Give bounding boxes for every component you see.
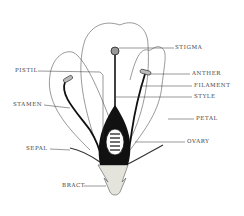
flower-illustration — [0, 0, 244, 216]
bract — [98, 165, 128, 195]
anther-left — [63, 75, 74, 83]
label-bract: BRACT — [62, 183, 85, 189]
label-stamen: STAMEN — [13, 102, 42, 108]
anther-right — [140, 69, 152, 76]
label-ovary: OVARY — [187, 139, 210, 145]
stigma — [111, 47, 119, 55]
label-style: STYLE — [194, 94, 216, 100]
label-filament: FILAMENT — [194, 83, 231, 89]
label-sepal: SEPAL — [26, 146, 48, 152]
label-petal: PETAL — [196, 116, 218, 122]
label-pistil: PISTIL — [15, 68, 38, 74]
flower-diagram: STIGMA PISTIL ANTHER FILAMENT STYLE STAM… — [0, 0, 244, 216]
label-stigma: STIGMA — [175, 45, 202, 51]
filament-right — [126, 74, 145, 160]
petal-right — [130, 47, 165, 150]
sepal-left — [70, 148, 100, 162]
sepal-right — [128, 145, 163, 164]
label-anther: ANTHER — [192, 71, 221, 77]
